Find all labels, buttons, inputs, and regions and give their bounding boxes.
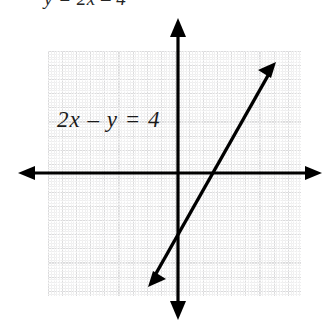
y-axis-bottom-arrowhead (170, 301, 186, 320)
x-axis-left-arrowhead (18, 166, 35, 180)
coordinate-plane (0, 0, 330, 325)
graph-figure: y = 2x – 4 2x – y = 4 (0, 0, 330, 325)
line-equation-label: 2x – y = 4 (57, 107, 160, 133)
x-axis-right-arrowhead (305, 166, 322, 180)
y-axis-top-arrowhead (170, 18, 186, 37)
